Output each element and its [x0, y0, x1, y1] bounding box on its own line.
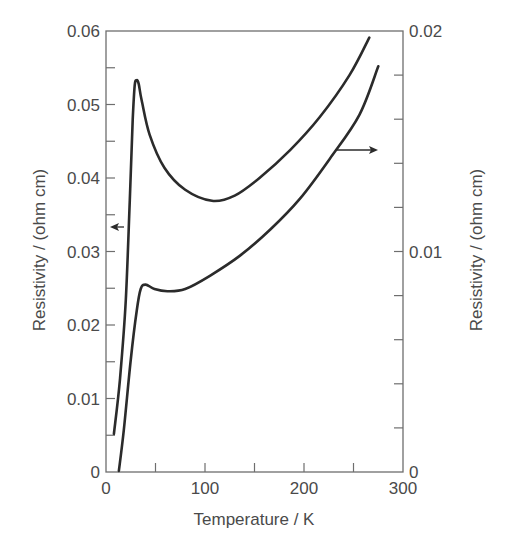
y-axis-title-right: Resistivity / (ohm cm): [467, 169, 486, 331]
y-left-tick-label: 0.06: [67, 22, 100, 41]
x-tick-label: 200: [290, 479, 318, 498]
plot-frame: [106, 31, 403, 472]
x-tick-label: 0: [101, 479, 110, 498]
y-right-tick-label: 0: [409, 463, 418, 482]
y-left-tick-label: 0.02: [67, 316, 100, 335]
y-left-tick-label: 0.05: [67, 96, 100, 115]
y-left-tick-label: 0.04: [67, 169, 100, 188]
curve-right-axis: [119, 66, 378, 471]
y-left-tick-label: 0.01: [67, 390, 100, 409]
curve-left-axis: [114, 38, 369, 434]
y-left-tick-label: 0: [91, 463, 100, 482]
y-left-tick-label: 0.03: [67, 243, 100, 262]
y-right-tick-label: 0.02: [409, 22, 442, 41]
data-curves: [114, 38, 378, 471]
plot-border: [106, 31, 403, 472]
x-axis-title: Temperature / K: [194, 510, 316, 529]
y-axis-title-left: Resistivity / (ohm cm): [30, 169, 49, 331]
chart-canvas: 010020030000.010.020.030.040.050.0600.01…: [0, 0, 509, 548]
axis-ticks: [106, 68, 403, 472]
x-tick-label: 100: [191, 479, 219, 498]
y-right-tick-label: 0.01: [409, 243, 442, 262]
